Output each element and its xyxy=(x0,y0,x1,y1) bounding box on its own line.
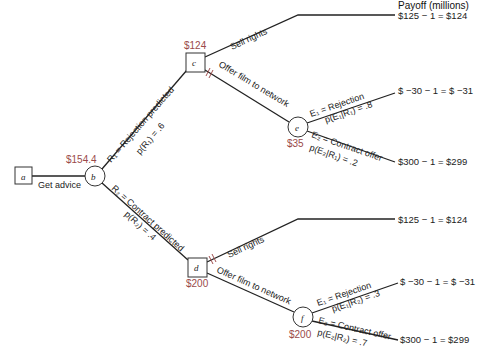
payoff-2: $ −30 − 1 = $ −31 xyxy=(398,85,473,96)
node-label-b: b xyxy=(91,172,96,182)
value-b: $154.4 xyxy=(66,154,97,165)
node-label-d: d xyxy=(194,263,199,273)
value-f: $200 xyxy=(289,329,312,340)
decision-tree: a b c e d f $154.4 $124 $35 $200 $200 Ge… xyxy=(0,0,485,357)
payoff-3: $300 − 1 = $299 xyxy=(398,156,467,167)
value-e: $35 xyxy=(287,138,304,149)
label-r2: R₂ = Contract predicted xyxy=(110,183,186,253)
label-get-advice: Get advice xyxy=(38,180,81,190)
label-d-offer: Offer film to network xyxy=(215,265,293,307)
node-label-c: c xyxy=(192,58,196,68)
payoff-1: $125 − 1 = $124 xyxy=(398,10,467,21)
node-label-a: a xyxy=(21,172,26,182)
payoff-5: $ −30 − 1 = $ −31 xyxy=(400,276,475,287)
value-d: $200 xyxy=(186,278,209,289)
label-d-sell: Sell rights xyxy=(226,234,266,260)
label-c-sell: Sell rights xyxy=(229,26,269,52)
payoff-4: $125 − 1 = $124 xyxy=(398,214,467,225)
value-c: $124 xyxy=(184,40,207,51)
payoff-6: $300 − 1 = $299 xyxy=(400,334,469,345)
node-label-e: e xyxy=(295,123,299,133)
